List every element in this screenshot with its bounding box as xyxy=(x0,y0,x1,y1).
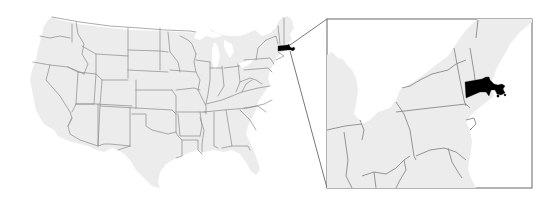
inset-marthas-vineyard xyxy=(497,95,499,97)
inset-nantucket xyxy=(504,94,506,96)
locator-map: Massachusetts xyxy=(0,0,560,203)
us-map xyxy=(30,16,295,188)
connector-line-top xyxy=(290,19,327,45)
connector-line-bottom xyxy=(290,51,327,188)
us-landmass xyxy=(30,16,294,188)
inset-map xyxy=(327,19,532,188)
